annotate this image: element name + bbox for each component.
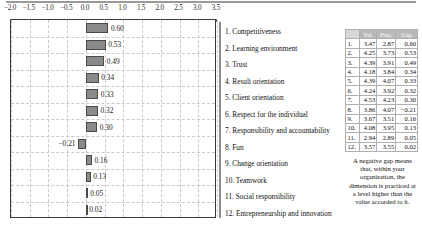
x-axis-tick-label: −0.5 [60,4,72,12]
grid-line-horizontal [11,70,215,71]
legend-item: 12. Entrepreneurship and innovation [225,210,332,217]
table-row: 5.4.394.070.33 [346,76,418,85]
table-cell-idx: 1. [346,39,360,48]
bar-value-label: 0.53 [108,41,121,48]
table-row: 7.4.534.230.30 [346,95,418,104]
table-cell-gap: 0.32 [396,86,418,95]
legend-item: 6. Respect for the individual [225,111,308,118]
plot-area: 0.600.530.490.340.330.320.30−0.210.160.1… [10,20,216,218]
bar [86,23,108,33]
legend-item: 5. Client orientation [225,94,284,101]
table-cell-idx: 5. [346,76,360,85]
bar [86,155,92,165]
table-row: 10.4.083.950.13 [346,123,418,132]
table-cell-prac: 3.51 [377,114,396,123]
table-cell-val: 4.39 [360,58,377,67]
x-axis-tick-label: −1.5 [23,4,35,12]
table-cell-idx: 3. [346,58,360,67]
legend-item: 1. Competitiveness [225,28,281,35]
grid-line-horizontal [11,185,215,186]
table-cell-val: 4.18 [360,67,377,76]
table-cell-idx: 10. [346,123,360,132]
category-legend: 1. Competitiveness2. Learning environmen… [219,22,359,218]
table-cell-prac: 3.73 [377,48,396,57]
legend-item: 4. Result orientation [225,78,284,85]
legend-item: 10. Teamwork [225,177,267,184]
table-row: 3.4.393.910.49 [346,58,418,67]
table-cell-gap: 0.60 [396,39,418,48]
table-cell-prac: 4.07 [377,105,396,114]
bar-value-label: 0.13 [93,173,106,180]
table-cell-idx: 4. [346,67,360,76]
bar-value-label: 0.05 [90,190,103,197]
x-axis-tick-label: 0.5 [99,4,107,12]
grid-line-horizontal [11,169,215,170]
table-row: 9.3.673.510.16 [346,114,418,123]
bar [86,40,106,50]
table-cell-val: 4.25 [360,48,377,57]
grid-line-vertical [217,20,218,217]
table-cell-val: 4.24 [360,86,377,95]
x-axis-tick-label: 2.0 [156,4,164,12]
bar-value-label: 0.33 [101,91,114,98]
table-cell-idx: 12. [346,142,360,151]
bar [86,188,88,198]
table-cell-idx: 8. [346,105,360,114]
bar-value-label: 0.32 [100,107,113,114]
x-axis-tick-label: 2.5 [174,4,182,12]
table-cell-gap: 0.33 [396,76,418,85]
table-header-gap: Gap [396,30,418,39]
table-cell-prac: 4.23 [377,95,396,104]
table-cell-prac: 4.07 [377,76,396,85]
table-cell-idx: 9. [346,114,360,123]
table-cell-gap: 0.49 [396,58,418,67]
x-axis-tick-label: 0.0 [81,4,89,12]
grid-line-horizontal [11,152,215,153]
x-axis-tick-label: 1.0 [118,4,126,12]
x-axis-tick-label: 3.5 [212,4,220,12]
bar [86,89,98,99]
table-cell-prac: 2.87 [377,39,396,48]
chart-page: −2.0−1.5−1.0−0.50.00.51.01.52.02.53.03.5… [0,0,422,229]
grid-line-horizontal [11,86,215,87]
x-axis-tick-label: 1.5 [137,4,145,12]
bar-value-label: 0.34 [101,74,114,81]
bar-value-label: 0.49 [107,58,120,65]
bar [86,56,104,66]
bar [86,106,98,116]
table-cell-prac: 3.91 [377,58,396,67]
table-cell-val: 3.67 [360,114,377,123]
table-row: 4.4.183.840.34 [346,67,418,76]
table-row: 1.3.472.870.60 [346,39,418,48]
table-row: 6.4.243.920.32 [346,86,418,95]
table-cell-gap: −0.21 [396,105,418,114]
table-cell-gap: 0.13 [396,123,418,132]
table-cell-gap: 0.53 [396,48,418,57]
gap-data-table: Val. Prac. Gap 1.3.472.870.602.4.253.730… [345,29,418,152]
legend-item: 9. Change orientation [225,160,288,167]
table-cell-gap: 0.30 [396,95,418,104]
table-cell-val: 2.94 [360,133,377,142]
bar [78,139,86,149]
table-cell-idx: 11. [346,133,360,142]
table-cell-gap: 0.16 [396,114,418,123]
table-header-index [346,30,360,39]
table-cell-prac: 3.84 [377,67,396,76]
table-cell-val: 4.39 [360,76,377,85]
legend-item: 3. Trust [225,61,247,68]
table-row: 2.4.253.730.53 [346,48,418,57]
grid-line-horizontal [11,202,215,203]
table-cell-val: 4.08 [360,123,377,132]
table-cell-val: 4.53 [360,95,377,104]
legend-item: 8. Fun [225,144,244,151]
bar [86,205,88,215]
bar-value-label: 0.60 [111,25,124,32]
grid-line-horizontal [11,103,215,104]
table-cell-prac: 3.92 [377,86,396,95]
grid-line-horizontal [11,37,215,38]
x-axis-tick-label: −2.0 [4,4,16,12]
table-cell-prac: 3.55 [377,142,396,151]
table-cell-idx: 2. [346,48,360,57]
x-axis-tick-label: 3.0 [193,4,201,12]
table-cell-idx: 6. [346,86,360,95]
